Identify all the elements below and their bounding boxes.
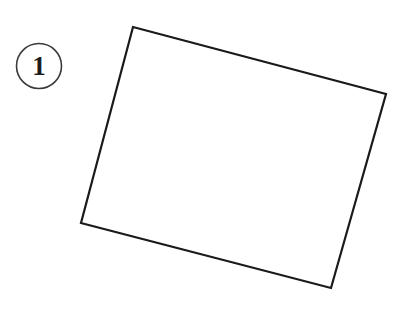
label-number-text: 1 — [32, 51, 46, 81]
figure-canvas: 1 — [0, 0, 398, 312]
label-badge-1: 1 — [17, 44, 62, 89]
